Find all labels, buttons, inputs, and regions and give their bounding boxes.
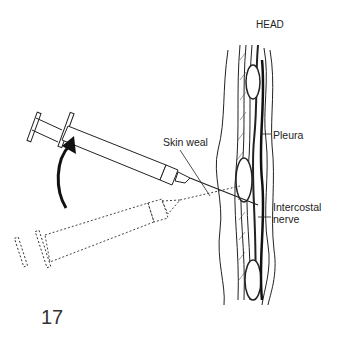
head-label: HEAD	[256, 19, 284, 31]
pleura-label: Pleura	[273, 129, 303, 141]
illustration	[0, 0, 341, 341]
ribs	[236, 65, 261, 300]
intercostal-nerve-label-line1: Intercostal	[273, 201, 321, 213]
figure-number: 17	[41, 306, 63, 329]
skin-weal-label: Skin weal	[163, 136, 208, 148]
syringe-dashed	[14, 186, 240, 268]
arrow-icon	[58, 145, 70, 208]
intercostal-nerve-label-line2: nerve	[273, 213, 299, 225]
